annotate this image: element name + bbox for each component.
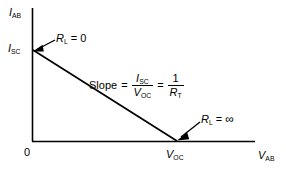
slope-fraction-one-rt: 1 RT — [168, 73, 184, 98]
slope-word: Slope — [89, 80, 117, 91]
origin-label: 0 — [24, 147, 30, 158]
slope-equals-second: = — [156, 80, 164, 91]
slope-fraction-numerator: ISC — [134, 73, 151, 85]
short-circuit-arrow — [33, 40, 55, 52]
y-intercept-label: ISC — [8, 43, 21, 54]
slope-equals-first: = — [120, 80, 128, 91]
slope-equation: Slope = ISC VOC = 1 RT — [89, 73, 184, 98]
iv-characteristic-figure: IAB VAB ISC 0 VOC RL = 0 RL = ∞ Slope = … — [0, 0, 286, 174]
open-circuit-arrow — [177, 122, 200, 141]
short-circuit-annotation: RL = 0 — [56, 33, 86, 44]
slope-fraction2-denominator: RT — [168, 85, 184, 98]
slope-fraction-isc-voc: ISC VOC — [132, 73, 154, 98]
x-axis-label: VAB — [258, 150, 274, 161]
slope-fraction-denominator: VOC — [132, 85, 154, 98]
x-intercept-label: VOC — [166, 149, 184, 160]
y-axis-label: IAB — [9, 7, 21, 18]
slope-fraction2-numerator: 1 — [171, 73, 181, 85]
open-circuit-annotation: RL = ∞ — [201, 113, 234, 125]
